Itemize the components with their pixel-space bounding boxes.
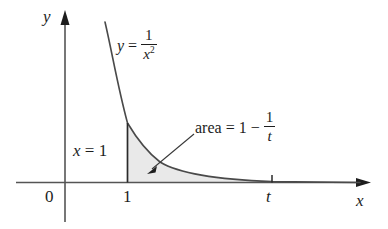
vertical-line-label-rhs: 1 <box>99 141 108 160</box>
curve-equation-denominator-exponent: 2 <box>150 45 155 55</box>
area-leader-line <box>152 134 194 169</box>
y-axis-arrowhead <box>61 10 70 25</box>
area-label-numerator: 1 <box>264 109 276 127</box>
curve-equation-denominator: x2 <box>141 45 156 62</box>
vertical-line-label-equals: = <box>85 141 95 160</box>
x-axis-label: x <box>356 192 364 209</box>
area-label: area = 1 − 1 t <box>195 112 275 147</box>
area-label-word: area <box>195 119 222 136</box>
curve-equation-denominator-base: x <box>143 45 150 62</box>
area-label-fraction: 1 t <box>264 109 276 144</box>
vertical-line-label: x = 1 <box>73 142 107 159</box>
x-tick-label-1: 1 <box>123 188 132 205</box>
area-label-one: 1 <box>239 119 247 136</box>
y-axis-label: y <box>43 8 51 25</box>
curve-equation-numerator: 1 <box>141 27 156 45</box>
origin-label: 0 <box>45 188 54 205</box>
area-label-minus: − <box>251 119 260 136</box>
area-label-equals: = <box>226 119 235 136</box>
x-tick-label-t: t <box>266 188 271 205</box>
area-label-denominator: t <box>264 127 276 144</box>
vertical-line-label-lhs: x <box>73 141 81 160</box>
curve-equation-fraction: 1 x2 <box>141 27 156 62</box>
curve-equation-equals: = <box>128 37 137 54</box>
curve-equation-lhs: y <box>117 37 124 54</box>
figure-container: y x 0 1 t y = 1 x2 x = 1 area = 1 − 1 t <box>0 0 388 229</box>
plot-svg <box>0 0 388 229</box>
curve-equation-label: y = 1 x2 <box>117 30 157 65</box>
